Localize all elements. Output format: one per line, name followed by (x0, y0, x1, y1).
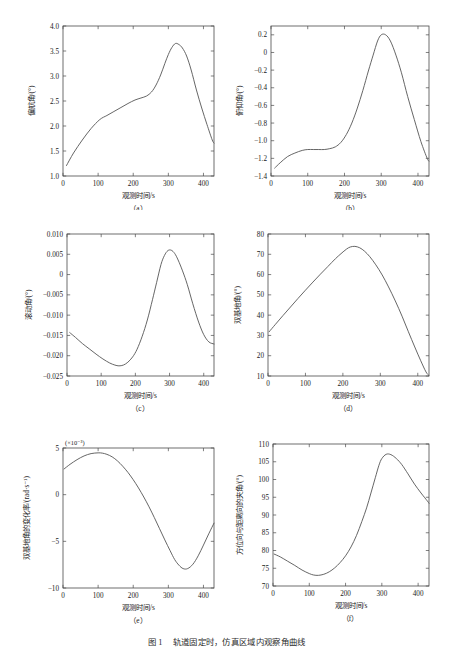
y-tick-label: −1.4 (254, 173, 267, 181)
figure-container: 01002003004001.01.52.02.53.03.54.0观测时间/s… (0, 0, 453, 647)
plot-frame-f (273, 444, 429, 586)
x-tick-label: 200 (340, 590, 351, 598)
x-tick-label: 400 (198, 592, 209, 600)
y-tick-label: 10 (257, 373, 265, 381)
subplot-f: 0100200300400707580859095100105110观测时间/s… (226, 420, 453, 630)
y-axis-label-d: 双基地角/(°) (233, 285, 242, 323)
x-axis-label-c: 观测时间/s (124, 391, 157, 400)
y-tick-label: −1.2 (254, 155, 267, 163)
y-axis-label-c: 滚动角/(°) (24, 289, 33, 320)
y-tick-label: −0.025 (43, 373, 64, 381)
y-tick-label: 85 (262, 529, 270, 537)
x-axis-label-f: 观测时间/s (335, 601, 368, 610)
x-tick-label: 0 (61, 180, 65, 188)
subplot-d: 01002003004001020304050607080观测时间/s双基地角/… (226, 210, 453, 420)
y-tick-label: 90 (262, 512, 270, 520)
x-tick-label: 200 (128, 180, 139, 188)
data-curve-d (269, 246, 429, 375)
x-axis-label-e: 观测时间/s (122, 603, 155, 612)
y-axis-label-b: 俯仰角/(°) (235, 85, 244, 116)
x-tick-label: 200 (130, 380, 141, 388)
y-tick-label: 60 (257, 271, 265, 279)
y-tick-label: 1.0 (50, 173, 59, 181)
y-tick-label: −0.015 (43, 332, 64, 340)
y-tick-label: 3.0 (50, 73, 59, 81)
caption-number: 图 1 (148, 638, 163, 647)
x-tick-label: 400 (198, 180, 209, 188)
y-tick-label: 80 (262, 547, 270, 555)
x-tick-label: 0 (61, 592, 65, 600)
x-tick-label: 300 (375, 380, 386, 388)
x-tick-label: 400 (413, 180, 424, 188)
x-tick-label: 100 (93, 592, 104, 600)
y-tick-label: −0.010 (43, 312, 64, 320)
y-tick-label: 3.5 (50, 48, 59, 56)
x-axis-label-b: 观测时间/s (334, 191, 367, 200)
y-tick-label: 95 (262, 494, 270, 502)
y-tick-label: −10 (48, 585, 60, 593)
y-axis-label-e: 双基地角的变化率/(rad·s⁻¹) (22, 476, 31, 560)
x-tick-label: 100 (302, 180, 313, 188)
panel-letter-d: （d） (339, 404, 357, 413)
y-tick-label: 50 (257, 291, 265, 299)
x-tick-label: 300 (376, 590, 387, 598)
caption-text: 轨道固定时，仿真区域内观察角曲线 (173, 638, 306, 647)
y-tick-label: 80 (257, 231, 265, 239)
plot-frame-c (67, 234, 214, 376)
y-tick-label: −0.6 (254, 102, 267, 110)
data-curve-a (67, 43, 214, 165)
y-tick-label: 0 (59, 271, 63, 279)
plot-frame-e (63, 448, 214, 588)
x-tick-label: 400 (198, 380, 209, 388)
y-tick-label: 0 (55, 491, 59, 499)
y-tick-label: 70 (262, 583, 270, 591)
y-axis-label-a: 偏航角/(°) (27, 85, 36, 116)
x-axis-label-a: 观测时间/s (122, 191, 155, 200)
x-tick-label: 300 (163, 592, 174, 600)
y-tick-label: 100 (258, 476, 269, 484)
x-tick-label: 200 (337, 380, 348, 388)
panel-letter-f: （f） (342, 614, 358, 623)
x-tick-label: 200 (128, 592, 139, 600)
axis-multiplier: (×10⁻³) (65, 439, 85, 447)
x-tick-label: 100 (96, 380, 107, 388)
y-tick-label: −0.005 (43, 291, 64, 299)
subplot-b: 0100200300400−1.4−1.2−1.0−0.8−0.6−0.4−0.… (226, 0, 453, 210)
subplot-a: 01002003004001.01.52.02.53.03.54.0观测时间/s… (0, 0, 226, 210)
subplot-c: 0100200300400−0.025−0.020−0.015−0.010−0.… (0, 210, 226, 420)
x-tick-label: 100 (304, 590, 315, 598)
x-tick-label: 0 (269, 180, 273, 188)
y-tick-label: 75 (262, 565, 270, 573)
y-tick-label: 20 (257, 352, 265, 360)
y-tick-label: 70 (257, 251, 265, 259)
y-tick-label: −0.8 (254, 120, 267, 128)
y-tick-label: −1.0 (254, 137, 267, 145)
x-tick-label: 100 (300, 380, 311, 388)
data-curve-c (70, 250, 214, 366)
y-tick-label: 4.0 (50, 23, 59, 31)
data-curve-b (275, 34, 429, 168)
x-tick-label: 300 (164, 380, 175, 388)
y-tick-label: 5 (55, 445, 59, 453)
x-tick-label: 300 (163, 180, 174, 188)
x-tick-label: 400 (412, 380, 423, 388)
subplot-grid: 01002003004001.01.52.02.53.03.54.0观测时间/s… (0, 0, 453, 630)
x-axis-label-d: 观测时间/s (332, 391, 365, 400)
y-tick-label: 0.005 (47, 251, 64, 259)
y-tick-label: 2.0 (50, 123, 59, 131)
panel-letter-c: （c） (131, 404, 148, 413)
y-tick-label: −0.4 (254, 84, 267, 92)
y-axis-label-f: 方位向与距离向的夹角/(°) (235, 474, 244, 554)
y-tick-label: 0.010 (47, 231, 64, 239)
subplot-e: 0100200300400−10−505(×10⁻³)观测时间/s双基地角的变化… (0, 420, 226, 630)
y-tick-label: 0 (263, 49, 267, 57)
x-tick-label: 0 (271, 590, 275, 598)
y-tick-label: 30 (257, 332, 265, 340)
y-tick-label: 2.5 (50, 98, 59, 106)
figure-caption: 图 1轨道固定时，仿真区域内观察角曲线 (0, 636, 453, 647)
y-tick-label: 0.2 (258, 31, 267, 39)
y-tick-label: −5 (51, 538, 59, 546)
y-tick-label: 1.5 (50, 148, 59, 156)
y-tick-label: 110 (258, 441, 269, 449)
x-tick-label: 200 (339, 180, 350, 188)
